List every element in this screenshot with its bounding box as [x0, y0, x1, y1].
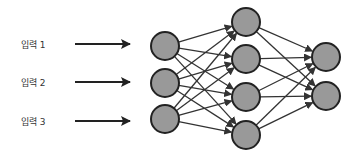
hidden-layer-node-4: [232, 121, 260, 149]
connection-arrow: [176, 68, 234, 111]
input-layer-node-1: [151, 32, 179, 60]
hidden-layer-node-1: [232, 8, 260, 36]
connection-arrow: [259, 28, 312, 51]
input-label-2: 입력 2: [21, 76, 46, 89]
neural-network-diagram: [0, 0, 362, 161]
connections: [174, 26, 315, 132]
input-arrows: [75, 44, 130, 121]
input-label-3: 입력 3: [21, 115, 46, 128]
input-layer-node-3: [151, 105, 179, 133]
input-layer-node-2: [151, 69, 179, 97]
connection-arrow: [178, 26, 231, 42]
input-label-1: 입력 1: [21, 38, 46, 51]
connection-arrow: [179, 122, 232, 132]
output-layer-node-1: [312, 43, 340, 71]
connection-arrow: [174, 34, 236, 109]
hidden-layer-node-2: [232, 45, 260, 73]
hidden-layer-node-3: [232, 83, 260, 111]
connection-arrow: [260, 57, 311, 58]
connection-arrow: [176, 31, 234, 75]
output-layer-node-2: [312, 82, 340, 110]
